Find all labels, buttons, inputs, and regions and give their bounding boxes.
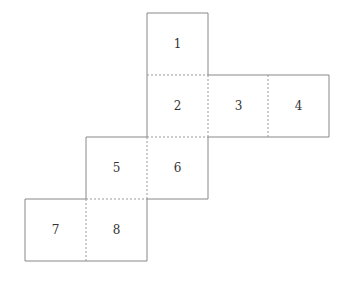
square-label-7: 7 xyxy=(25,199,86,261)
square-label-3: 3 xyxy=(208,75,269,137)
square-label-1: 1 xyxy=(147,13,208,75)
square-label-2: 2 xyxy=(147,75,208,137)
square-label-6: 6 xyxy=(147,137,208,199)
square-label-5: 5 xyxy=(86,137,147,199)
square-label-8: 8 xyxy=(86,199,147,261)
square-label-4: 4 xyxy=(268,75,329,137)
